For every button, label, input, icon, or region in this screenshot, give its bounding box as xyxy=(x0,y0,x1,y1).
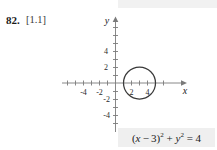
equation-plus: + xyxy=(167,132,173,144)
x-tick-label-4: 4 xyxy=(146,88,150,97)
y-axis-label: y xyxy=(104,15,110,26)
y-tick-label-neg2: -2 xyxy=(103,95,110,104)
equation-minus: − xyxy=(143,132,149,144)
x-tick-label-neg2: -2 xyxy=(96,88,103,97)
equation-caption-box: (x − 3)2 + y2 = 4 xyxy=(118,128,215,147)
x-tick-label-neg4: -4 xyxy=(80,88,87,97)
y-tick-label-2: 2 xyxy=(104,63,108,72)
y-axis-arrowhead xyxy=(113,17,119,23)
equation-text: (x − 3)2 + y2 = 4 xyxy=(132,132,201,144)
equation-exponent-right: 2 xyxy=(180,131,184,139)
figure-page: 82. [1.1] xyxy=(0,0,217,150)
equation-equals: = xyxy=(187,132,193,144)
equation-exponent-left: 2 xyxy=(160,131,164,139)
x-tick-label-2: 2 xyxy=(130,88,134,97)
y-tick-label-neg4: -4 xyxy=(103,111,110,120)
equation-var-x: x xyxy=(136,132,141,144)
equation-rhs: 4 xyxy=(196,132,202,144)
y-tick-label-4: 4 xyxy=(104,47,108,56)
x-axis-label: x xyxy=(182,85,188,96)
